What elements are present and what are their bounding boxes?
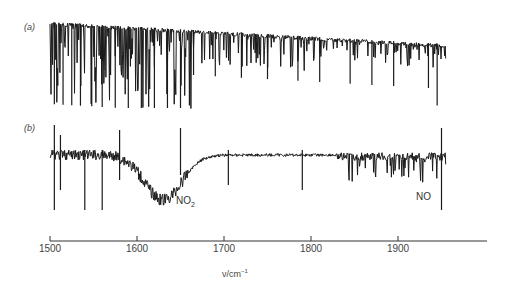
- annotation-no: NO: [416, 191, 431, 202]
- x-tick-label: 1700: [213, 243, 235, 254]
- x-axis: [50, 236, 487, 241]
- x-axis-label: ν/cm−1: [222, 268, 248, 279]
- trace-a: [50, 22, 446, 108]
- x-tick-label: 1800: [300, 243, 322, 254]
- x-tick-label: 1900: [387, 243, 409, 254]
- trace-b: [50, 125, 446, 210]
- panel-label-a: (a): [24, 22, 35, 32]
- spectrum-plot: [0, 0, 507, 290]
- x-tick-label: 1500: [39, 243, 61, 254]
- x-tick-label: 1600: [126, 243, 148, 254]
- panel-label-b: (b): [24, 123, 35, 133]
- annotation-no2: NO2: [176, 195, 195, 208]
